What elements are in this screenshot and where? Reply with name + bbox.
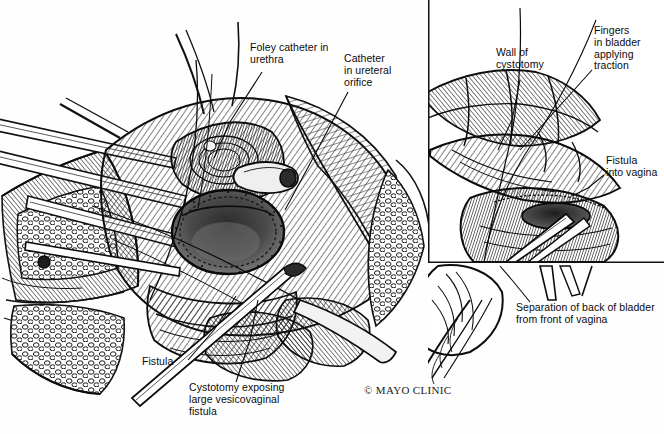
copyright-credit: © MAYO CLINIC [364, 384, 451, 396]
label-cystotomy-exposing-fistula: Cystotomy exposing large vesicovaginal f… [189, 382, 285, 417]
label-wall-of-cystotomy: Wall of cystotomy [496, 47, 544, 71]
label-foley-catheter: Foley catheter in urethra [250, 42, 329, 66]
illustration-canvas: Foley catheter in urethra Catheter in ur… [0, 0, 664, 434]
label-separation-bladder-vagina: Separation of back of bladder from front… [516, 302, 655, 326]
label-fistula-into-vagina: Fistula into vagina [606, 155, 657, 179]
label-fingers-in-bladder: Fingers in bladder applying traction [594, 25, 641, 72]
label-fistula: Fistula [142, 356, 173, 368]
label-ureteral-catheter: Catheter in ureteral orifice [344, 53, 391, 88]
surgical-artwork [0, 0, 664, 434]
